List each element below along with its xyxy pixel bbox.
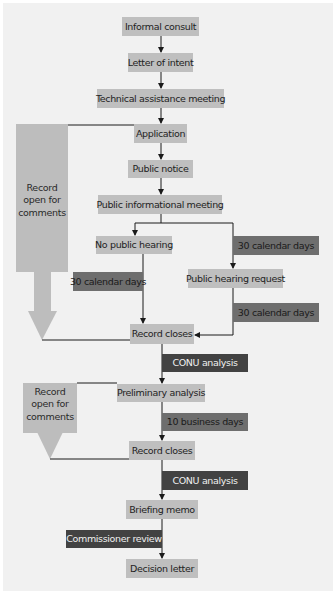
step-preliminary-analysis: Preliminary analysis (117, 384, 205, 402)
step-decision-letter: Decision letter (126, 559, 198, 578)
step-public-notice: Public notice (128, 160, 193, 178)
step-public-hearing-request: Public hearing request (188, 269, 283, 288)
duration-30-calendar-days-right-bottom: 30 calendar days (233, 303, 319, 322)
step-letter-of-intent: Letter of intent (128, 53, 193, 72)
comment-period-arrow-1 (16, 124, 68, 340)
step-technical-assistance-meeting: Technical assistance meeting (97, 89, 224, 108)
step-record-closes-2: Record closes (129, 441, 195, 460)
action-commissioner-review: Commissioner review (66, 530, 162, 548)
step-record-closes-1: Record closes (130, 324, 194, 344)
step-public-informational-meeting: Public informational meeting (98, 195, 222, 214)
step-briefing-memo: Briefing memo (126, 500, 198, 519)
step-application: Application (134, 124, 187, 143)
comment-period-label-2: Record open for comments (23, 386, 77, 423)
comment-period-label-1: Record open for comments (16, 182, 68, 219)
step-no-public-hearing: No public hearing (96, 236, 172, 254)
duration-30-calendar-days-left: 30 calendar days (73, 272, 143, 291)
action-conu-analysis-1: CONU analysis (162, 354, 248, 372)
step-informal-consult: Informal consult (122, 17, 199, 36)
duration-30-calendar-days-right-top: 30 calendar days (233, 236, 319, 255)
duration-10-business-days: 10 business days (162, 413, 248, 431)
action-conu-analysis-2: CONU analysis (162, 471, 248, 490)
